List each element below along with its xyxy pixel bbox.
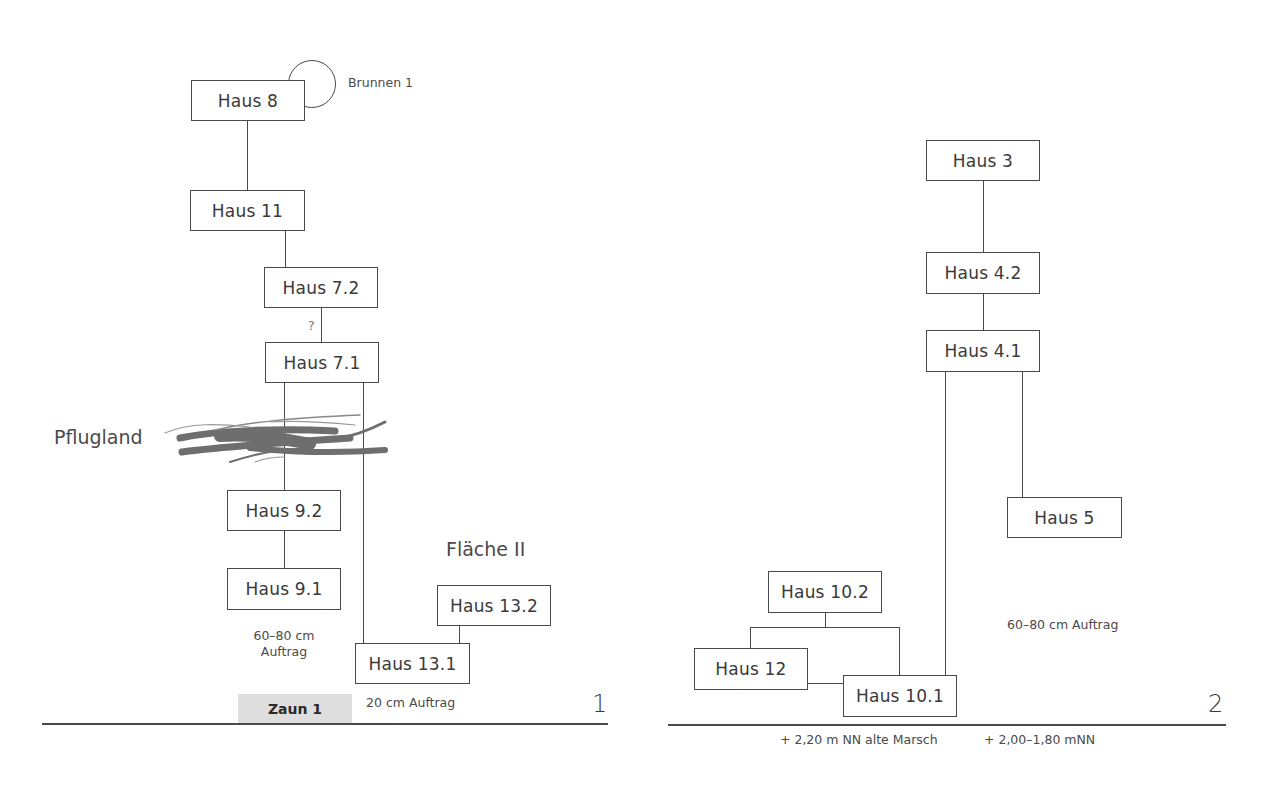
panel-1-baseline [42,723,608,725]
connector-h9-2-h9-1 [284,531,285,568]
house-13-1: Haus 13.1 [355,643,470,684]
house-9-1: Haus 9.1 [227,568,341,610]
house-11: Haus 11 [190,190,305,231]
connector-h11-h7-2 [285,231,286,267]
house-7-1: Haus 7.1 [265,342,379,383]
auftrag-20-note: 20 cm Auftrag [366,695,455,710]
connector-h4-2-h4-1 [983,294,984,330]
auftrag-60-80-line1: 60–80 cm [246,628,322,644]
connector-h8-h11 [247,120,248,190]
house-4-1: Haus 4.1 [926,330,1040,372]
panel-2-baseline [668,724,1226,726]
connector-branch-h10-1 [899,627,900,675]
connector-h12-h10-1 [808,683,843,684]
auftrag-60-80-line2: Auftrag [246,644,322,660]
pflugland-hatching [160,400,400,470]
flaeche-label: Fläche II [446,538,525,560]
panel-1-number: 1 [592,690,607,718]
house-10-1: Haus 10.1 [843,675,957,717]
connector-h3-h4-2 [983,181,984,252]
house-3: Haus 3 [926,140,1040,181]
house-9-2: Haus 9.2 [227,490,341,531]
panel-2-number: 2 [1208,690,1223,718]
level-range: + 2,00–1,80 mNN [984,732,1095,747]
connector-h10-2-branch [750,627,900,628]
house-8: Haus 8 [191,80,305,121]
connector-h4-1-h10-1 [945,372,946,675]
well-label: Brunnen 1 [348,75,413,90]
auftrag-60-80-note: 60–80 cm Auftrag [246,628,322,660]
house-13-2: Haus 13.2 [437,585,551,626]
level-alte-marsch: + 2,20 m NN alte Marsch [780,732,938,747]
connector-h4-1-h5 [1022,372,1023,497]
pflugland-label: Pflugland [54,426,143,448]
connector-h7-2-h7-1 [321,308,322,342]
auftrag-60-80-note-2: 60–80 cm Auftrag [1007,617,1118,632]
house-4-2: Haus 4.2 [926,252,1040,294]
connector-branch-h12 [750,627,751,648]
house-5: Haus 5 [1007,497,1122,538]
zaun-label: Zaun 1 [238,694,352,724]
connector-h10-2-stem [825,613,826,627]
house-7-2: Haus 7.2 [264,267,378,308]
house-12: Haus 12 [694,648,808,690]
house-10-2: Haus 10.2 [768,571,882,613]
connector-h13-2-h13-1 [459,626,460,643]
uncertain-mark: ? [308,318,315,333]
